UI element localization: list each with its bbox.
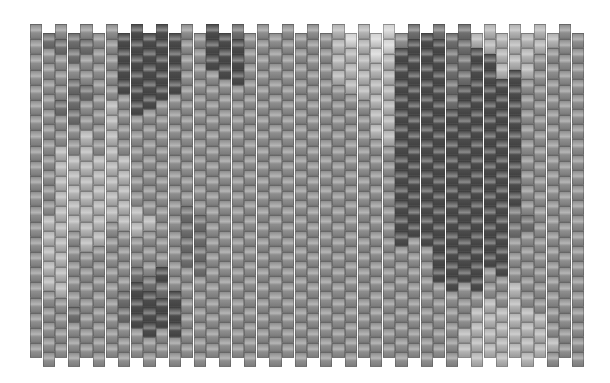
bead bbox=[408, 206, 420, 221]
bead bbox=[181, 146, 193, 161]
bead bbox=[433, 54, 445, 69]
bead bbox=[93, 139, 105, 154]
bead bbox=[395, 109, 407, 124]
bead bbox=[93, 246, 105, 261]
bead bbox=[383, 115, 395, 130]
bead bbox=[55, 298, 67, 313]
bead bbox=[169, 231, 181, 246]
bead bbox=[307, 54, 319, 69]
bead bbox=[143, 94, 155, 109]
bead bbox=[269, 322, 281, 337]
bead bbox=[219, 155, 231, 170]
bead bbox=[345, 261, 357, 276]
bead bbox=[118, 124, 130, 139]
bead bbox=[282, 146, 294, 161]
bead bbox=[421, 185, 433, 200]
bead bbox=[320, 322, 332, 337]
bead bbox=[534, 146, 546, 161]
bead bbox=[509, 222, 521, 237]
bead bbox=[358, 206, 370, 221]
bead bbox=[206, 70, 218, 85]
bead bbox=[55, 85, 67, 100]
bead bbox=[55, 282, 67, 297]
bead bbox=[547, 33, 559, 48]
bead bbox=[332, 176, 344, 191]
bead bbox=[43, 215, 55, 230]
bead bbox=[257, 252, 269, 267]
bead bbox=[93, 291, 105, 306]
bead bbox=[421, 170, 433, 185]
bead bbox=[269, 170, 281, 185]
bead bbox=[269, 48, 281, 63]
bead bbox=[572, 109, 584, 124]
bead bbox=[232, 85, 244, 100]
bead bbox=[383, 54, 395, 69]
bead bbox=[80, 70, 92, 85]
bead bbox=[269, 352, 281, 367]
bead bbox=[446, 170, 458, 185]
bead bbox=[408, 222, 420, 237]
bead bbox=[383, 282, 395, 297]
bead bbox=[80, 146, 92, 161]
bead bbox=[43, 276, 55, 291]
bead bbox=[80, 24, 92, 39]
bead bbox=[68, 94, 80, 109]
bead bbox=[509, 252, 521, 267]
bead bbox=[433, 176, 445, 191]
bead bbox=[345, 79, 357, 94]
bead bbox=[169, 322, 181, 337]
bead bbox=[496, 200, 508, 215]
bead bbox=[559, 24, 571, 39]
bead bbox=[395, 33, 407, 48]
bead bbox=[68, 33, 80, 48]
bead bbox=[547, 322, 559, 337]
bead bbox=[282, 24, 294, 39]
bead bbox=[169, 124, 181, 139]
bead bbox=[295, 200, 307, 215]
bead bbox=[219, 109, 231, 124]
bead bbox=[269, 246, 281, 261]
bead bbox=[131, 130, 143, 145]
bead bbox=[93, 124, 105, 139]
bead bbox=[408, 115, 420, 130]
bead bbox=[358, 313, 370, 328]
bead bbox=[143, 109, 155, 124]
bead bbox=[458, 282, 470, 297]
bead bbox=[143, 185, 155, 200]
bead bbox=[232, 237, 244, 252]
bead bbox=[395, 200, 407, 215]
bead bbox=[206, 161, 218, 176]
bead bbox=[458, 176, 470, 191]
bead bbox=[547, 261, 559, 276]
bead bbox=[282, 100, 294, 115]
bead bbox=[458, 206, 470, 221]
bead bbox=[169, 337, 181, 352]
bead bbox=[43, 63, 55, 78]
bead bbox=[181, 130, 193, 145]
bead bbox=[194, 276, 206, 291]
bead bbox=[232, 282, 244, 297]
bead bbox=[496, 307, 508, 322]
bead bbox=[232, 191, 244, 206]
bead bbox=[471, 291, 483, 306]
bead bbox=[206, 206, 218, 221]
bead bbox=[93, 170, 105, 185]
bead bbox=[93, 33, 105, 48]
bead bbox=[295, 291, 307, 306]
bead bbox=[408, 39, 420, 54]
bead bbox=[559, 237, 571, 252]
bead bbox=[496, 322, 508, 337]
bead bbox=[358, 85, 370, 100]
bead bbox=[471, 48, 483, 63]
bead bbox=[383, 176, 395, 191]
bead bbox=[257, 54, 269, 69]
bead bbox=[131, 85, 143, 100]
bead bbox=[521, 33, 533, 48]
bead bbox=[572, 215, 584, 230]
bead bbox=[421, 307, 433, 322]
bead bbox=[421, 261, 433, 276]
bead bbox=[320, 79, 332, 94]
bead bbox=[521, 124, 533, 139]
bead bbox=[55, 176, 67, 191]
bead bbox=[320, 109, 332, 124]
